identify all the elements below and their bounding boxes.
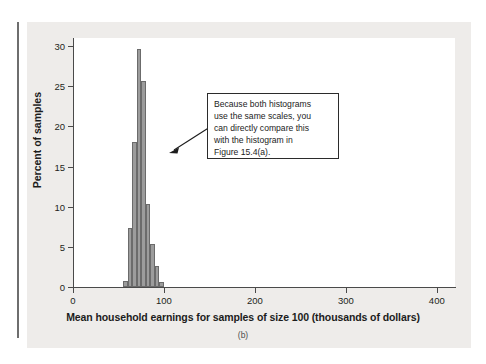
figure-caption: (b)	[0, 330, 486, 340]
x-axis-tick-label: 300	[338, 296, 354, 306]
annotation-line: can directly compare this	[214, 122, 332, 134]
x-axis-tick	[255, 288, 256, 293]
annotation-callout: Because both histogramsuse the same scal…	[207, 93, 339, 159]
y-axis-tick	[68, 126, 73, 127]
y-axis-tick-label: 20	[54, 122, 65, 132]
page-margin-rule	[17, 22, 19, 338]
y-axis-tick-label: 5	[60, 243, 65, 253]
annotation-line: Because both histograms	[214, 98, 332, 110]
y-axis-tick-label: 30	[54, 42, 65, 52]
x-axis-tick-label: 200	[247, 296, 263, 306]
x-axis-line	[73, 287, 456, 288]
y-axis-tick	[68, 247, 73, 248]
x-axis-tick	[437, 288, 438, 293]
x-axis-tick-label: 0	[70, 296, 75, 306]
annotation-line: Figure 15.4(a).	[214, 146, 332, 158]
x-axis-tick	[73, 288, 74, 293]
x-axis-title: Mean household earnings for samples of s…	[0, 311, 486, 323]
x-axis-tick	[164, 288, 165, 293]
histogram-bar	[159, 282, 164, 287]
y-axis-tick	[68, 167, 73, 168]
y-axis-tick-label: 10	[54, 203, 65, 213]
x-axis-tick-label: 400	[429, 296, 445, 306]
y-axis-line	[73, 38, 74, 288]
y-axis-tick-label: 25	[54, 82, 65, 92]
y-axis-tick	[68, 207, 73, 208]
y-axis-tick-label: 15	[54, 163, 65, 173]
annotation-line: with the histogram in	[214, 134, 332, 146]
x-axis-tick	[346, 288, 347, 293]
y-axis-tick	[68, 46, 73, 47]
y-axis-title: Percent of samples	[31, 92, 43, 188]
y-axis-tick-label: 0	[60, 283, 65, 293]
annotation-arrow-icon	[165, 124, 211, 158]
x-axis-tick-label: 100	[156, 296, 172, 306]
annotation-line: use the same scales, you	[214, 110, 332, 122]
y-axis-tick	[68, 86, 73, 87]
